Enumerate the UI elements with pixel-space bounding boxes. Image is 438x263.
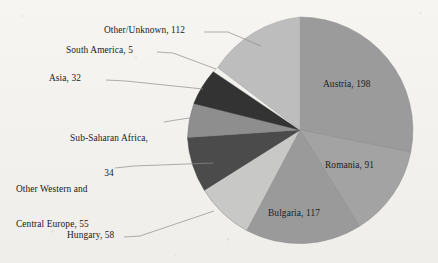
slice-label-hungary: Hungary, 58	[67, 230, 114, 242]
slice-label-sub-saharan-africa-line1: Sub-Saharan Africa,	[54, 133, 164, 145]
leader-line-asia	[106, 80, 203, 89]
slice-label-other-western-central-europe-line2: Central Europe, 55	[16, 219, 89, 231]
slice-label-south-america: South America, 5	[66, 45, 133, 57]
leader-line-hungary	[124, 211, 214, 237]
slice-label-other-western-central-europe-line1: Other Western and	[16, 184, 89, 196]
slice-label-austria: Austria, 198	[323, 79, 371, 91]
slice-label-bulgaria: Bulgaria, 117	[268, 208, 320, 220]
slice-label-romania: Romania, 91	[325, 160, 374, 172]
leader-line-south-america	[157, 52, 216, 69]
slice-label-asia: Asia, 32	[49, 73, 81, 85]
slice-label-other-unknown: Other/Unknown, 112	[104, 25, 185, 37]
chart-page: Other/Unknown, 112 South America, 5 Asia…	[0, 0, 438, 263]
